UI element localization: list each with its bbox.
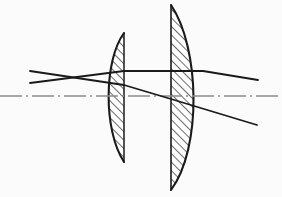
diagram-canvas	[0, 0, 282, 197]
optical-ray-diagram	[0, 0, 282, 197]
background	[0, 0, 282, 197]
